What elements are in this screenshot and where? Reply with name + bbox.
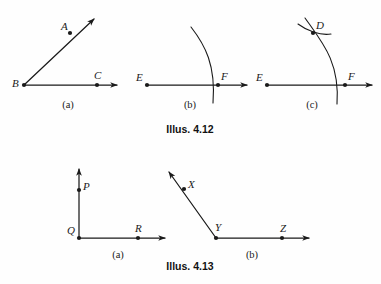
point-dot-A: [68, 31, 72, 35]
panel-412-b: EF(b): [135, 27, 247, 111]
panel-412-a: ABC(a): [12, 19, 117, 111]
point-dot-C: [95, 83, 99, 87]
figure-group-1: ABC(a)EF(b)EFD(c)Illus. 4.12: [12, 18, 372, 135]
point-label-D: D: [315, 19, 324, 31]
point-dot-F: [216, 83, 220, 87]
geometry-figure-canvas: ABC(a)EF(b)EFD(c)Illus. 4.12PQR(a)XYZ(b)…: [0, 0, 381, 284]
point-dot-D: [311, 31, 315, 35]
point-label-X: X: [187, 178, 196, 190]
point-dot-F: [343, 83, 347, 87]
figures-root: ABC(a)EF(b)EFD(c)Illus. 4.12PQR(a)XYZ(b)…: [12, 18, 372, 272]
point-dot-R: [136, 236, 140, 240]
panel-412-c: EFD(c): [255, 18, 372, 111]
point-dot-E: [145, 83, 149, 87]
point-dot-Y: [214, 236, 218, 240]
point-label-B: B: [12, 77, 19, 89]
point-dot-X: [182, 187, 186, 191]
point-label-F: F: [347, 70, 355, 82]
point-label-E: E: [135, 71, 143, 83]
point-label-C: C: [94, 69, 102, 81]
point-label-R: R: [134, 222, 142, 234]
point-label-Z: Z: [280, 222, 287, 234]
panel-413-b: XYZ(b): [169, 172, 309, 261]
point-label-Q: Q: [67, 224, 75, 236]
figure-caption-1: Illus. 4.12: [166, 123, 213, 135]
panel-412-c-caption: (c): [306, 99, 318, 111]
panel-412-b-caption: (b): [184, 99, 197, 111]
point-dot-Q: [77, 236, 81, 240]
point-dot-Z: [280, 236, 284, 240]
point-dot-B: [22, 83, 26, 87]
point-dot-P: [77, 188, 81, 192]
figure-caption-2: Illus. 4.13: [166, 260, 213, 272]
point-label-Y: Y: [215, 221, 223, 233]
panel-413-a-caption: (a): [112, 249, 124, 261]
point-label-F: F: [220, 70, 228, 82]
point-dot-E: [265, 83, 269, 87]
ray-BA: [24, 19, 94, 85]
panel-412-a-caption: (a): [62, 99, 74, 111]
point-label-A: A: [60, 20, 68, 32]
compass-arc-F: [191, 27, 213, 103]
figure-page: ABC(a)EF(b)EFD(c)Illus. 4.12PQR(a)XYZ(b)…: [0, 0, 381, 284]
panel-413-a: PQR(a): [67, 169, 165, 261]
point-label-E: E: [255, 71, 263, 83]
point-label-P: P: [82, 180, 90, 192]
panel-413-b-caption: (b): [246, 249, 259, 261]
figure-group-2: PQR(a)XYZ(b)Illus. 4.13: [67, 169, 309, 272]
